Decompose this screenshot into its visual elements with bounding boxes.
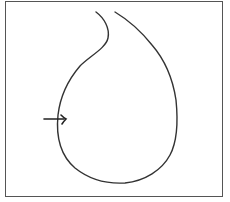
teardrop-outline bbox=[58, 12, 178, 183]
drawing-canvas bbox=[0, 0, 230, 202]
pointer-arrow-icon bbox=[44, 115, 66, 124]
